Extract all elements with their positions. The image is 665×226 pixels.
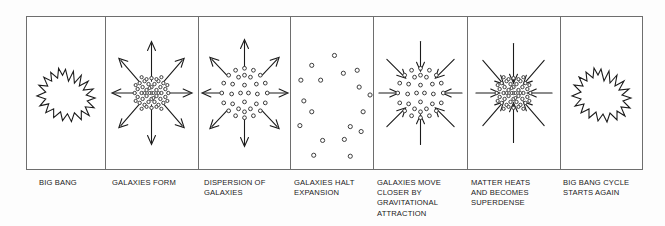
panel-galaxies-form (106, 17, 199, 169)
starburst-icon (27, 17, 105, 169)
ring-spread-expanding-icon (199, 17, 290, 169)
dense-cluster-expanding-icon (106, 17, 198, 169)
panel-matter-heats-superdense (468, 17, 561, 169)
caption-big-bang-cycle-starts-again: BIG BANG CYCLE STARTS AGAIN (560, 178, 641, 224)
panel-big-bang (27, 17, 106, 169)
outward-arrows (202, 40, 288, 147)
panel-galaxies-halt-expansion (291, 17, 374, 169)
panel-dispersion-of-galaxies (199, 17, 291, 169)
caption-galaxies-halt-expansion: GALAXIES HALT EXPANSION (290, 178, 373, 224)
galaxy-dots (396, 66, 445, 119)
caption-matter-heats-superdense: MATTER HEATS AND BECOMES SUPERDENSE (467, 178, 560, 224)
inward-arrows (379, 42, 462, 145)
caption-galaxies-form: GALAXIES FORM (105, 178, 198, 224)
caption-galaxies-move-closer: GALAXIES MOVE CLOSER BY GRAVITATIONAL AT… (373, 178, 467, 224)
dense-cluster-contracting-icon (468, 17, 560, 169)
galaxy-dots (220, 66, 269, 119)
oscillating-universe-diagram: BIG BANG GALAXIES FORM DISPERSION OF GAL… (0, 0, 665, 226)
panel-strip (26, 16, 643, 170)
ring-spread-contracting-icon (374, 17, 467, 169)
starburst-icon (561, 17, 642, 169)
galaxy-dots (298, 53, 372, 158)
caption-big-bang: BIG BANG (26, 178, 105, 224)
caption-row: BIG BANG GALAXIES FORM DISPERSION OF GAL… (26, 178, 643, 224)
panel-big-bang-cycle-starts-again (561, 17, 642, 169)
panel-galaxies-move-closer (374, 17, 468, 169)
scattered-galaxies-icon (291, 17, 373, 169)
caption-dispersion-of-galaxies: DISPERSION OF GALAXIES (198, 178, 290, 224)
